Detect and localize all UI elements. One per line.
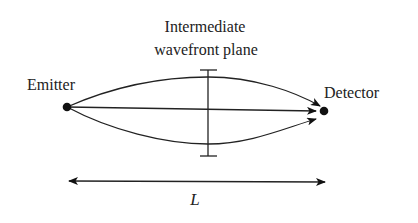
detector-dot xyxy=(320,107,329,116)
detector-label: Detector xyxy=(324,84,380,101)
distance-label: L xyxy=(189,190,199,209)
wavefront-plane xyxy=(200,70,217,156)
lower-path-arrow xyxy=(67,107,316,144)
plane-label-line1: Intermediate xyxy=(165,18,246,35)
emitter-label: Emitter xyxy=(27,76,76,93)
distance-arrow xyxy=(69,181,325,182)
upper-path-arrow xyxy=(67,77,320,107)
direct-path-arrow xyxy=(67,107,316,111)
emitter-dot xyxy=(63,103,72,112)
plane-label-line2: wavefront plane xyxy=(154,41,258,59)
wavefront-diagram: Intermediate wavefront plane Emitter Det… xyxy=(0,0,418,223)
